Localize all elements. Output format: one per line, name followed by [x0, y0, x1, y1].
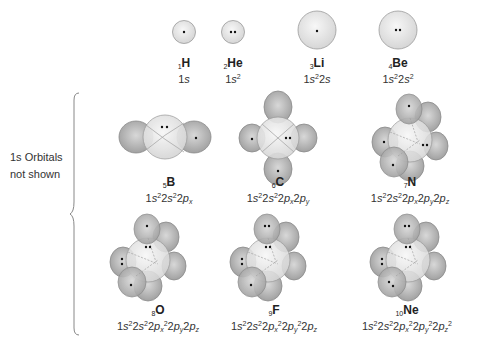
s-orbital-icon [220, 19, 246, 45]
s-orbital-icon [171, 19, 197, 45]
element-label-b: 5B 1s22s22px [109, 176, 229, 205]
electron-configuration: 1s22s22px [109, 192, 229, 205]
electron-configuration: 1s22s22px22py22pz2 [337, 320, 477, 333]
p-orbital-icon [118, 110, 218, 166]
element-label-be: 4Be 1s22s2 [338, 57, 458, 86]
p-orbital-icon [370, 212, 446, 302]
p-orbital-icon [240, 90, 316, 186]
p-orbital-icon [372, 92, 448, 182]
electron-configuration: 1s22s22px22py22pz [204, 320, 344, 333]
element-label-ne: 10Ne 1s22s22px22py22pz2 [337, 304, 477, 333]
p-orbital-icon [110, 212, 186, 302]
element-label-f: 9F 1s22s22px22py22pz [204, 304, 344, 333]
electron-configuration: 1s22s22px2py2pz [350, 192, 470, 205]
s-orbital-icon [297, 10, 337, 50]
electron-configuration: 1s22s22px2py [218, 192, 338, 205]
element-label-n: 7N 1s22s22px2py2pz [350, 176, 470, 205]
side-note: 1s Orbitals not shown [10, 149, 63, 183]
brace-icon [69, 92, 83, 336]
p-orbital-icon [230, 212, 306, 302]
electron-configuration: 1s22s2 [338, 73, 458, 86]
s-orbital-icon [378, 10, 418, 50]
element-label-c: 6C 1s22s22px2py [218, 176, 338, 205]
